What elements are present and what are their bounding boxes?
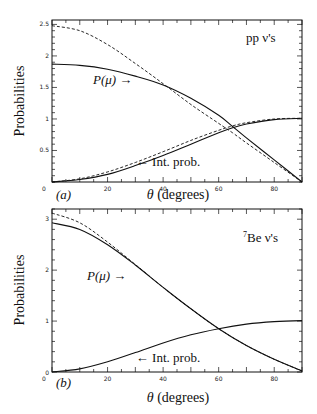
panel-b: 0204060801230P(μ) →← Int. prob.7Be ν'sPr…	[12, 209, 302, 406]
panel-label: (a)	[56, 187, 71, 202]
x-tick-label: 20	[104, 185, 112, 192]
y-tick-label: 2	[45, 266, 49, 273]
x-tick-label: 20	[104, 375, 112, 382]
line-p-solid	[52, 223, 302, 371]
panel-title: pp ν's	[246, 30, 276, 45]
panel-a: 0204060800.511.522.5P(μ) →← Int. prob.pp…	[12, 20, 302, 203]
y-tick-label: 3	[45, 215, 49, 222]
x-tick-label: 60	[215, 375, 223, 382]
int-prob-annotation: ← Int. prob.	[136, 154, 200, 169]
pmu-annotation: P(μ) →	[92, 72, 132, 87]
y-tick-label: 1.5	[39, 83, 49, 90]
int-prob-annotation: ← Int. prob.	[136, 350, 200, 365]
y-axis-label: Probabilities	[12, 255, 27, 326]
x-axis-label: θ (degrees)	[147, 390, 210, 406]
y-tick-label: 1	[45, 317, 49, 324]
x-tick-label: 0	[42, 185, 46, 192]
x-tick-label: 40	[159, 375, 167, 382]
y-tick-label: 0	[45, 369, 49, 376]
y-tick-label: 2.5	[39, 20, 49, 27]
y-tick-label: 0.5	[39, 146, 49, 153]
pmu-annotation: P(μ) →	[86, 268, 126, 283]
x-axis-label: θ (degrees)	[147, 187, 210, 203]
panel-title: 7Be ν's	[243, 230, 278, 245]
x-tick-label: 0	[42, 375, 46, 382]
x-tick-label: 60	[215, 185, 223, 192]
y-axis-label: Probabilities	[12, 66, 27, 137]
x-tick-label: 80	[270, 185, 278, 192]
panel-label: (b)	[56, 375, 71, 390]
y-tick-label: 2	[45, 52, 49, 59]
y-tick-label: 1	[45, 115, 49, 122]
x-tick-label: 80	[270, 375, 278, 382]
figure: 0204060800.511.522.5P(μ) →← Int. prob.pp…	[0, 0, 317, 414]
line-int-prob-solid	[52, 118, 302, 182]
